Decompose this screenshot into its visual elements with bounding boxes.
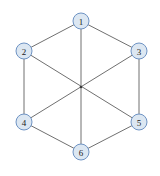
graph-canvas: 123456 xyxy=(0,0,160,176)
graph-node-label-3: 3 xyxy=(137,47,142,57)
graph-node-4[interactable]: 4 xyxy=(16,114,32,130)
graph-node-5[interactable]: 5 xyxy=(131,114,147,130)
graph-node-6[interactable]: 6 xyxy=(73,144,89,160)
graph-node-1[interactable]: 1 xyxy=(73,13,89,29)
graph-node-label-5: 5 xyxy=(137,118,142,128)
graph-node-3[interactable]: 3 xyxy=(131,43,147,59)
graph-figure: 123456 xyxy=(0,0,160,176)
graph-node-label-6: 6 xyxy=(79,148,84,158)
graph-edge-n4-n6 xyxy=(24,122,81,152)
graph-node-label-1: 1 xyxy=(79,17,84,27)
graph-edge-n1-n2 xyxy=(24,21,81,51)
graph-node-2[interactable]: 2 xyxy=(16,43,32,59)
graph-edge-n1-n3 xyxy=(81,21,139,51)
graph-node-label-2: 2 xyxy=(22,47,27,57)
graph-node-label-4: 4 xyxy=(22,118,27,128)
edge-crossing-dot xyxy=(80,86,83,89)
graph-edge-n5-n6 xyxy=(81,122,139,152)
graph-center-dot xyxy=(80,86,83,89)
